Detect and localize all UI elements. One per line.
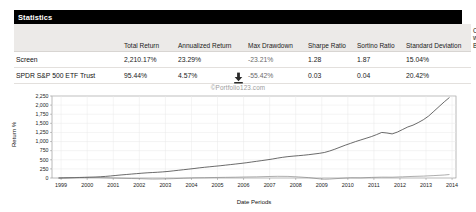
column-header-total-return: Total Return (122, 24, 176, 52)
column-header-annualized-return: Annualized Return (176, 24, 246, 52)
column-header-sortino-ratio: Sortino Ratio (355, 24, 404, 52)
x-axis-tick-label: 2002 (133, 182, 145, 188)
x-axis-tick-label: 2014 (446, 182, 458, 188)
portfolio-backtest-screenshot: Statistics Total Return Annualized Retur… (0, 0, 476, 212)
performance-chart: 02505007501,0001,2501,5001,7502,0002,250… (0, 90, 476, 208)
cell-standard-deviation: 15.04% (404, 52, 471, 68)
x-axis-tick-label: 2011 (368, 182, 380, 188)
column-header-standard-deviation: Standard Deviation (404, 24, 471, 52)
table-row: Screen 2,210.17% 23.29% -23.21% 1.28 1.8… (14, 52, 471, 68)
x-axis-tick-label: 2003 (159, 182, 171, 188)
x-axis-title: Date Periods (237, 199, 272, 205)
column-header-max-drawdown: Max Drawdown (246, 24, 306, 52)
cell-sharpe-ratio: 1.28 (306, 52, 355, 68)
y-axis-tick-label: 0 (46, 175, 49, 181)
table-header-row: Total Return Annualized Return Max Drawd… (14, 24, 471, 52)
y-axis-tick-label: 500 (40, 157, 49, 163)
y-axis-tick-label: 1,000 (36, 138, 49, 144)
performance-chart-svg: 02505007501,0001,2501,5001,7502,0002,250… (0, 90, 476, 208)
x-axis-tick-label: 2007 (264, 182, 276, 188)
column-header-sharpe-ratio: Sharpe Ratio (306, 24, 355, 52)
column-header-entity (14, 24, 122, 52)
x-axis-tick-label: 2004 (185, 182, 197, 188)
plot-area (52, 96, 456, 178)
y-axis-title: Return % (11, 121, 17, 147)
y-axis-tick-label: 750 (40, 147, 49, 153)
x-axis-tick-label: 2012 (394, 182, 406, 188)
y-axis-tick-label: 2,250 (36, 93, 49, 99)
y-axis-tick-label: 1,500 (36, 120, 49, 126)
y-axis-tick-label: 1,250 (36, 129, 49, 135)
row-label-screen: Screen (14, 52, 122, 68)
x-axis-tick-label: 2008 (290, 182, 302, 188)
statistics-panel-title: Statistics (14, 10, 462, 24)
y-axis-ticks: 02505007501,0001,2501,5001,7502,0002,250 (36, 93, 49, 181)
x-axis-ticks: 1999200020012002200320042005200620072008… (55, 182, 458, 188)
x-axis-tick-label: 2009 (316, 182, 328, 188)
x-axis-tick-label: 2000 (81, 182, 93, 188)
x-axis-tick-label: 2001 (107, 182, 119, 188)
x-axis-tick-label: 2005 (212, 182, 224, 188)
cell-max-drawdown: -23.21% (246, 52, 306, 68)
cell-total-return: 2,210.17% (122, 52, 176, 68)
y-axis-tick-label: 2,000 (36, 102, 49, 108)
x-axis-tick-label: 1999 (55, 182, 67, 188)
x-axis-tick-label: 2010 (342, 182, 354, 188)
download-icon[interactable] (233, 72, 244, 84)
x-axis-tick-label: 2006 (238, 182, 250, 188)
y-axis-tick-label: 250 (40, 166, 49, 172)
y-axis-tick-label: 1,750 (36, 111, 49, 117)
cell-sortino-ratio: 1.87 (355, 52, 404, 68)
x-axis-tick-label: 2013 (420, 182, 432, 188)
download-button[interactable] (0, 72, 476, 84)
cell-annualized-return: 23.29% (176, 52, 246, 68)
